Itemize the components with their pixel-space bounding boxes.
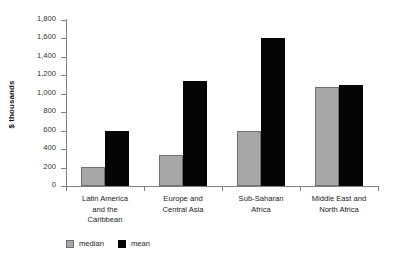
bar-mean <box>339 85 363 186</box>
y-tick-label: 200 <box>43 162 56 171</box>
legend-label: mean <box>131 239 150 248</box>
y-tick-label: 1,200 <box>37 69 56 78</box>
y-tick-label: 1,000 <box>37 88 56 97</box>
y-axis-title: $ thousands <box>7 55 16 155</box>
category-label: Sub-SaharanAfrica <box>222 194 300 226</box>
bar-median <box>237 131 261 186</box>
bar-median <box>159 155 183 186</box>
category-label-line: Central Asia <box>145 205 221 216</box>
y-tick-label: 400 <box>43 143 56 152</box>
bar-group <box>222 20 300 186</box>
category-label-line: Latin America <box>67 194 143 205</box>
category-label-line: Sub-Saharan <box>223 194 299 205</box>
category-labels: Latin Americaand theCaribbeanEurope andC… <box>66 194 378 226</box>
chart-legend: medianmean <box>66 239 266 248</box>
legend-swatch-icon <box>66 240 74 248</box>
bar-mean <box>183 81 207 186</box>
y-tick-label: 1,400 <box>37 51 56 60</box>
legend-swatch-icon <box>118 240 126 248</box>
x-tick-mark <box>144 186 145 191</box>
bar-median <box>315 87 339 186</box>
legend-item-median[interactable]: median <box>66 239 104 248</box>
bar-mean <box>105 131 129 186</box>
category-label: Latin Americaand theCaribbean <box>66 194 144 226</box>
category-label-line: Europe and <box>145 194 221 205</box>
bar-group <box>66 20 144 186</box>
category-label-line: and the <box>67 205 143 216</box>
category-label-line: North Africa <box>301 205 377 216</box>
category-label: Europe andCentral Asia <box>144 194 222 226</box>
legend-label: median <box>79 239 104 248</box>
bar-group <box>144 20 222 186</box>
y-tick-label: 1,800 <box>37 14 56 23</box>
y-tick-label: 1,600 <box>37 32 56 41</box>
x-tick-mark <box>300 186 301 191</box>
category-label-line: Africa <box>223 205 299 216</box>
x-tick-mark <box>66 186 67 191</box>
bar-group <box>300 20 378 186</box>
bar-groups <box>66 20 378 186</box>
y-tick-label: 0 <box>52 180 56 189</box>
bar-median <box>81 167 105 186</box>
category-label-line: Middle East and <box>301 194 377 205</box>
x-tick-mark <box>378 186 379 191</box>
y-tick-label: 800 <box>43 106 56 115</box>
category-label-line: Caribbean <box>67 215 143 226</box>
y-tick-label: 600 <box>43 125 56 134</box>
bar-chart: $ thousands 1,8001,6001,4001,2001,000800… <box>0 0 395 261</box>
category-label: Middle East andNorth Africa <box>300 194 378 226</box>
legend-item-mean[interactable]: mean <box>118 239 150 248</box>
bar-mean <box>261 38 285 186</box>
x-tick-mark <box>222 186 223 191</box>
